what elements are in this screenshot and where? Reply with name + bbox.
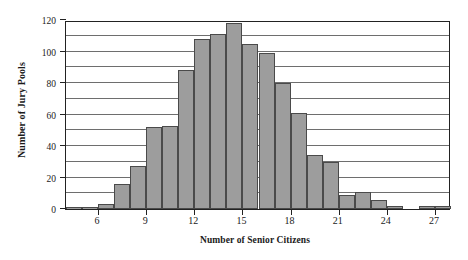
x-axis-tick-label: 6 <box>82 215 112 227</box>
histogram-bar <box>130 166 146 209</box>
y-axis-tick-label: 60 <box>26 111 56 120</box>
histogram-bar <box>291 113 307 209</box>
y-axis-tick-label: 0 <box>26 206 56 215</box>
y-axis-tick-label: 120 <box>26 17 56 26</box>
histogram-bar <box>178 70 194 209</box>
histogram-bar <box>194 39 210 209</box>
histogram-bar <box>419 206 435 209</box>
x-axis-tick-label: 21 <box>323 215 353 227</box>
x-axis-tick-label: 24 <box>371 215 401 227</box>
x-axis-tick-label: 27 <box>419 215 449 227</box>
histogram-bar <box>66 207 82 209</box>
histogram-bar <box>435 206 451 209</box>
y-axis-tick <box>60 82 66 83</box>
y-axis-tick-label: 100 <box>26 48 56 57</box>
y-axis-tick <box>60 208 66 209</box>
histogram-bar <box>339 195 355 209</box>
histogram-bar <box>146 127 162 209</box>
histogram-bar <box>82 207 98 209</box>
histogram-bar <box>259 53 275 209</box>
histogram-bar <box>162 126 178 209</box>
y-axis-tick <box>60 114 66 115</box>
x-axis-tick-label: 18 <box>275 215 305 227</box>
y-axis-tick-label: 80 <box>26 80 56 89</box>
y-axis-tick <box>60 51 66 52</box>
gridline <box>66 35 449 36</box>
histogram-bar <box>226 23 242 209</box>
y-axis-tick <box>60 19 66 20</box>
histogram-bar <box>323 162 339 209</box>
y-axis-tick-label: 40 <box>26 143 56 152</box>
y-axis-tick <box>60 145 66 146</box>
histogram-figure: Number of Jury Pools Number of Senior Ci… <box>0 0 468 260</box>
x-axis-tick-label: 15 <box>226 215 256 227</box>
histogram-bar <box>371 200 387 209</box>
histogram-bar <box>387 206 403 209</box>
y-axis-tick-label: 20 <box>26 174 56 183</box>
histogram-bar <box>114 184 130 209</box>
plot-area <box>65 21 450 210</box>
histogram-bar <box>242 44 258 209</box>
histogram-bar <box>307 155 323 209</box>
histogram-bar <box>355 192 371 209</box>
x-axis-title: Number of Senior Citizens <box>55 235 455 245</box>
y-axis-tick <box>60 177 66 178</box>
histogram-bar <box>210 34 226 209</box>
x-axis-tick-label: 12 <box>178 215 208 227</box>
histogram-bar <box>275 83 291 209</box>
histogram-bar <box>98 204 114 209</box>
x-axis-tick-label: 9 <box>130 215 160 227</box>
